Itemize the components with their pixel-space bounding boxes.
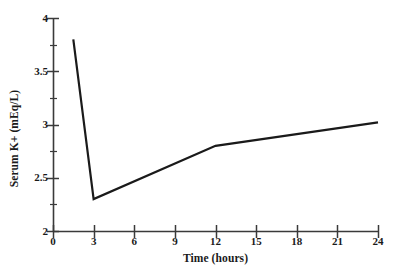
x-axis-label: Time (hours): [53, 252, 378, 264]
x-tick-label: 21: [322, 236, 352, 247]
x-tick-label: 24: [363, 236, 393, 247]
data-series-group: [73, 39, 378, 199]
x-tick-label: 18: [282, 236, 312, 247]
x-tick-label: 3: [79, 236, 109, 247]
x-axis-tick-labels: 03691215182124: [0, 236, 398, 252]
chart-figure: Serum K+ (mEq/L) 22.533.54 0369121518212…: [0, 0, 398, 277]
y-tick-label: 4: [22, 13, 48, 24]
x-tick-label: 15: [241, 236, 271, 247]
data-line-0: [73, 39, 378, 199]
y-tick-label: 2.5: [22, 172, 48, 183]
y-tick-label: 3.5: [22, 66, 48, 77]
x-tick-label: 9: [160, 236, 190, 247]
y-tick-label: 3: [22, 119, 48, 130]
x-tick-label: 0: [38, 236, 68, 247]
x-tick-label: 6: [119, 236, 149, 247]
x-tick-label: 12: [201, 236, 231, 247]
y-tick-label: 2: [22, 226, 48, 237]
